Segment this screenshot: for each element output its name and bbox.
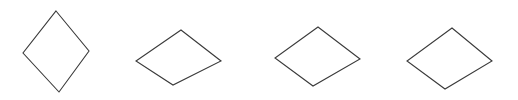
rhombus-shape-3 — [275, 27, 360, 86]
figure-canvas — [0, 0, 518, 100]
rhombus-shape-4 — [407, 28, 492, 89]
rhombus-shape-1 — [23, 11, 89, 92]
rhombus-group — [0, 0, 518, 100]
rhombus-shape-2 — [136, 30, 221, 85]
